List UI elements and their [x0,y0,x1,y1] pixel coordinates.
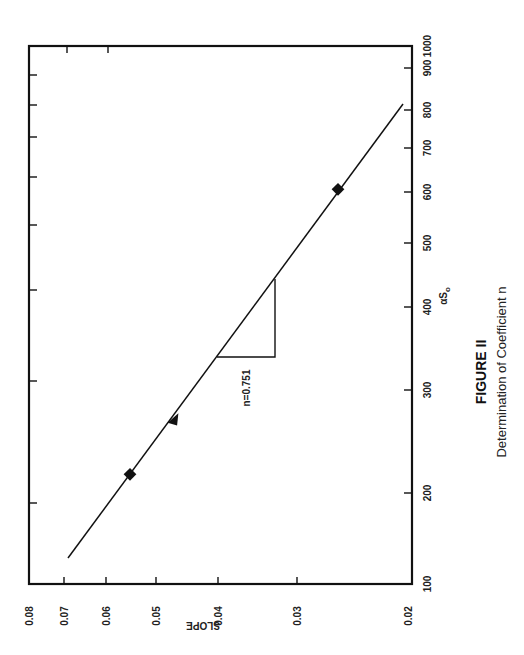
svg-text:0.07: 0.07 [59,606,70,626]
svg-text:100: 100 [422,575,433,592]
svg-text:0.06: 0.06 [101,606,112,626]
svg-text:0.03: 0.03 [292,606,303,626]
as0-axis-title: αSo [438,287,452,305]
fit-line [68,104,403,558]
svg-text:0.08: 0.08 [24,606,35,626]
slope-axis-title: SLOPE [186,620,220,631]
diamond-marker-icon [124,468,137,481]
svg-text:600: 600 [422,183,433,200]
svg-text:αSo: αSo [438,287,452,305]
plot-frame [29,46,412,584]
figure-title: FIGURE II [473,340,489,405]
chart-figure: 0.08 0.07 0.06 0.05 0.04 0.03 0.02 SLOPE… [0,0,524,655]
as0-tick-labels: 100 200 300 400 500 600 700 800 900 1000 [422,34,433,592]
svg-text:0.05: 0.05 [151,606,162,626]
left-edge-ticks [29,75,37,503]
svg-text:200: 200 [422,484,433,501]
figure-subtitle: Determination of Coefficient n [494,286,509,457]
svg-text:1000: 1000 [422,34,433,57]
svg-text:800: 800 [422,101,433,118]
as0-axis-ticks [404,68,412,493]
svg-text:300: 300 [422,381,433,398]
slope-annotation: n=0.751 [241,369,252,406]
svg-text:400: 400 [422,298,433,315]
svg-text:900: 900 [422,59,433,76]
svg-text:0.02: 0.02 [403,606,414,626]
svg-text:700: 700 [422,139,433,156]
svg-text:500: 500 [422,234,433,251]
